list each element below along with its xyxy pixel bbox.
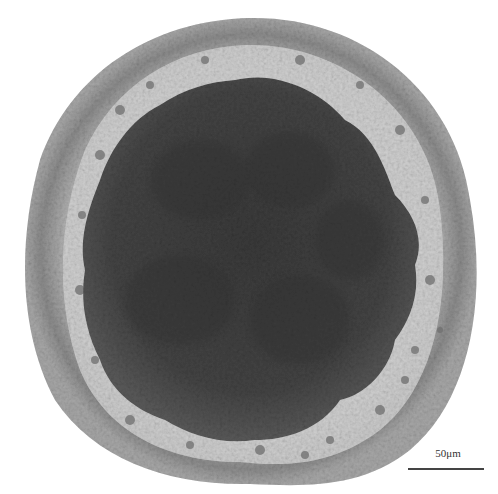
scale-bar-label: 50μm: [420, 447, 476, 459]
micrograph: [0, 0, 498, 494]
scale-bar: [408, 468, 484, 470]
